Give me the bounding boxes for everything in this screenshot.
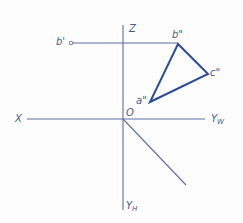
label-x: X	[15, 114, 22, 124]
label-yw-sub: W	[217, 118, 224, 126]
label-b-prime-text: b'	[56, 36, 65, 47]
label-b-dprime: b"	[172, 30, 183, 40]
label-origin-text: O	[126, 107, 134, 118]
label-z-text: Z	[129, 23, 136, 34]
label-yh: YH	[126, 201, 137, 213]
label-a-dprime: a"	[136, 96, 147, 106]
label-z: Z	[129, 24, 136, 34]
label-yh-sub: H	[132, 205, 137, 213]
label-c-dprime-text: c"	[210, 67, 220, 78]
label-c-dprime: c"	[210, 68, 220, 78]
label-b-dprime-text: b"	[172, 29, 183, 40]
label-yw: YW	[211, 114, 224, 126]
point-b-prime-marker	[69, 41, 73, 45]
diagonal-auxiliary-line	[123, 119, 186, 185]
label-b-prime: b'	[56, 37, 65, 47]
label-x-text: X	[15, 113, 22, 124]
diagram-svg	[0, 0, 243, 223]
label-origin: O	[126, 108, 134, 118]
projection-diagram: Z b' b" c" a" O X YW YH	[0, 0, 243, 223]
label-a-dprime-text: a"	[136, 95, 147, 106]
triangle-side-view	[150, 44, 208, 102]
